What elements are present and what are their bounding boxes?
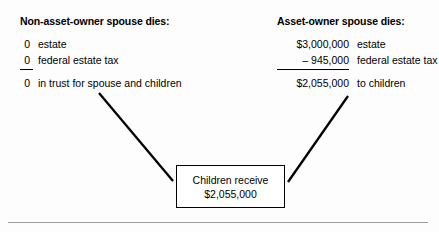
ledger-row: 0 in trust for spouse and children: [20, 75, 182, 91]
ledger-row: $3,000,000 estate: [277, 36, 438, 52]
ledger-amount: 0: [20, 52, 30, 68]
ledger-label: in trust for spouse and children: [30, 75, 182, 91]
ledger-row: 0 estate: [20, 36, 182, 52]
ledger-row: 0 federal estate tax: [20, 52, 182, 68]
ledger-label: estate: [349, 36, 386, 52]
connector-line-left: [99, 93, 173, 181]
ledger-label: federal estate tax: [349, 52, 438, 68]
result-box-line-1: Children receive: [193, 173, 269, 187]
ledger-label: to children: [349, 75, 405, 91]
estate-planning-diagram: Non-asset-owner spouse dies: 0 estate 0 …: [0, 0, 439, 232]
ledger-sum-rule: [277, 69, 349, 70]
ledger-sum-rule: [20, 69, 33, 70]
left-panel-ledger: 0 estate 0 federal estate tax 0 in trust…: [20, 36, 182, 91]
ledger-amount: – 945,000: [277, 52, 349, 68]
ledger-row: $2,055,000 to children: [277, 75, 438, 91]
bottom-divider: [8, 222, 428, 223]
right-panel-ledger: $3,000,000 estate – 945,000 federal esta…: [277, 36, 438, 91]
ledger-amount: 0: [20, 75, 30, 91]
ledger-label: federal estate tax: [30, 52, 119, 68]
ledger-amount: 0: [20, 36, 30, 52]
right-panel-heading: Asset-owner spouse dies:: [277, 15, 405, 27]
ledger-amount: $2,055,000: [277, 75, 349, 91]
ledger-row: – 945,000 federal estate tax: [277, 52, 438, 68]
result-box-line-2: $2,055,000: [204, 187, 257, 201]
connector-line-right: [288, 96, 348, 182]
ledger-amount: $3,000,000: [277, 36, 349, 52]
left-panel-heading: Non-asset-owner spouse dies:: [20, 15, 169, 27]
result-box: Children receive $2,055,000: [176, 165, 285, 208]
ledger-label: estate: [30, 36, 67, 52]
